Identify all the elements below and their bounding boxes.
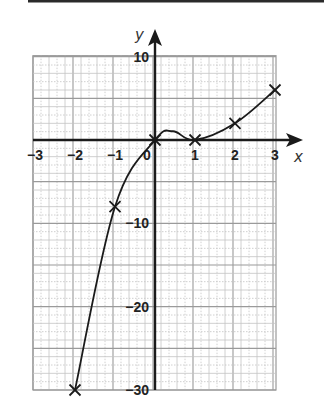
y-axis-label: y — [134, 26, 145, 44]
top-rule — [28, 0, 324, 3]
y-tick-label: −10 — [125, 215, 149, 231]
x-tick-label: −2 — [67, 147, 83, 163]
x-tick-label: −1 — [107, 147, 123, 163]
x-tick-label: 1 — [191, 147, 199, 163]
x-axis-label: x — [293, 148, 303, 166]
x-tick-label: −3 — [27, 147, 43, 163]
y-tick-label: −20 — [125, 299, 149, 315]
cubic-graph: x y −3−2−10123 10−10−20−30 — [0, 0, 324, 420]
y-tick-label: 10 — [133, 49, 149, 65]
x-tick-label: 3 — [271, 147, 279, 163]
x-tick-label: 2 — [231, 147, 239, 163]
y-tick-label: −30 — [125, 382, 149, 398]
